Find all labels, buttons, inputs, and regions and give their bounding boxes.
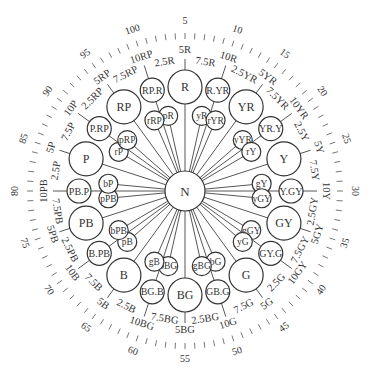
inner-hue-circle: pRP [118, 131, 137, 150]
tick-mark [318, 115, 323, 118]
tick-mark [213, 36, 214, 42]
inner-spoke [200, 204, 239, 238]
tick-mark [296, 83, 300, 87]
inner-spoke [169, 211, 180, 262]
tick-mark [302, 90, 307, 94]
hue-label: 7.5YR [264, 85, 291, 112]
tick-mark [109, 53, 112, 58]
tick-mark [165, 342, 166, 348]
tick-mark [35, 238, 41, 240]
hue-label: 7.5Y [307, 159, 321, 182]
inner-hue-circle-label: rYR [207, 116, 224, 126]
tick-mark [57, 280, 62, 284]
tick-mark [146, 38, 147, 44]
tick-mark [127, 44, 129, 50]
inner-hue-circle-label: yGY [252, 194, 271, 204]
tick-mark [100, 319, 103, 324]
tick-mark [38, 133, 44, 135]
inner-hue-circle: yG [233, 232, 252, 251]
major-hue-circle-label: Y [280, 152, 289, 166]
hue-label: 10Y [321, 182, 332, 201]
tick-mark [38, 247, 44, 249]
major-hue-circle: BG [168, 278, 202, 312]
intermediate-hue-circle-label: Y.GY [280, 186, 303, 197]
inner-hue-circle-label: bPB [111, 226, 127, 236]
major-hue-circle: Y [267, 142, 301, 176]
scale-number: 65 [79, 319, 94, 334]
intermediate-hue-circle: R.YR [206, 78, 230, 102]
major-hue-circle: PB [69, 206, 103, 240]
tick-mark [223, 38, 224, 44]
scale-number: 40 [313, 282, 328, 297]
tick-mark [165, 34, 166, 40]
hue-label: 2.5P [49, 160, 63, 181]
hue-label: 2.5GY [305, 196, 320, 226]
tick-mark [70, 295, 74, 299]
hue-label: 2.5BG [191, 311, 221, 326]
hue-label: 7.5G [232, 296, 256, 315]
hue-label: 2.5PB [59, 235, 81, 263]
tick-mark [213, 340, 214, 346]
hue-label: 7.5PB [50, 197, 65, 224]
intermediate-hue-circle: GY.G [259, 241, 283, 265]
inner-spoke [131, 143, 170, 177]
tick-mark [77, 76, 81, 80]
intermediate-hue-circle-label: GY.G [259, 248, 282, 259]
inner-hue-circle-label: yG [237, 237, 249, 247]
tick-mark [30, 161, 36, 162]
major-hue-circle: RP [107, 90, 141, 124]
tick-mark [223, 338, 224, 344]
inner-hue-circle-label: rY [246, 147, 256, 157]
tick-mark [32, 152, 38, 153]
inner-hue-circle: rY [242, 142, 261, 161]
tick-mark [136, 336, 138, 342]
tick-mark [84, 308, 88, 313]
major-hue-circle: R [168, 70, 202, 104]
tick-mark [318, 264, 323, 267]
tick-mark [296, 295, 300, 299]
scale-number: 35 [338, 236, 352, 249]
tick-mark [250, 48, 253, 53]
tick-mark [336, 210, 342, 211]
hue-label: 2.5Y [292, 120, 311, 144]
tick-mark [258, 324, 261, 329]
tick-mark [334, 161, 340, 162]
intermediate-hue-circle-label: B.PB [89, 248, 111, 259]
major-hue-circle-label: PB [79, 216, 94, 230]
major-hue-circle-label: R [181, 80, 189, 94]
tick-mark [42, 124, 47, 127]
hue-label: 5BG [175, 324, 195, 335]
tick-mark [28, 171, 34, 172]
inner-hue-circle-label: gB [149, 257, 160, 267]
scale-number: 10 [231, 22, 244, 36]
tick-mark [155, 36, 156, 42]
tick-mark [334, 219, 340, 220]
tick-mark [274, 314, 278, 319]
tick-mark [289, 76, 293, 80]
scale-number: 55 [180, 353, 190, 364]
scale-number: 75 [19, 236, 33, 249]
hue-label: 10B [63, 262, 82, 283]
intermediate-hue-circle-label: RP.R [142, 85, 163, 96]
hue-label: 10R [219, 49, 239, 65]
hue-label: 5PB [45, 224, 61, 245]
tick-mark [232, 336, 234, 342]
tick-mark [42, 256, 47, 259]
major-hue-circle-label: B [120, 268, 128, 282]
neutral-label: N [180, 184, 190, 199]
intermediate-hue-circle-label: R.YR [206, 85, 229, 96]
neutral-circle: N [165, 171, 205, 211]
inner-spoke [113, 193, 165, 198]
tick-mark [332, 229, 338, 230]
tick-mark [204, 34, 205, 40]
tick-mark [323, 256, 328, 259]
tick-mark [258, 53, 261, 58]
scale-number: 70 [42, 282, 57, 297]
hue-label: 2.5R [154, 55, 176, 69]
tick-mark [146, 338, 147, 344]
hue-label: 2.5YR [230, 63, 260, 85]
inner-hue-circle: gBG [192, 257, 211, 276]
inner-hue-circle-label: pPB [100, 194, 116, 204]
intermediate-hue-circle-label: P.RP [90, 123, 110, 134]
tick-mark [313, 106, 318, 109]
